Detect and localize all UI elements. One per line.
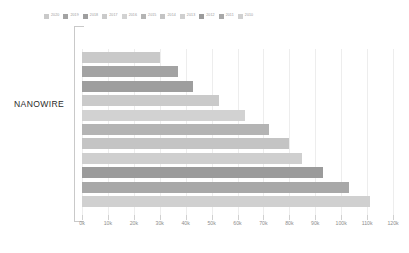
chart-legend: 2020201920182017201620152014201320122011… [44, 9, 394, 23]
bar-2012[interactable] [82, 167, 323, 178]
bar-row[interactable] [82, 153, 302, 164]
gridline [367, 49, 368, 215]
plot-area [82, 49, 393, 215]
x-axis-tick-label: 60k [233, 221, 241, 226]
bar-row[interactable] [82, 182, 349, 193]
bar-2013[interactable] [82, 153, 302, 164]
x-axis-tick-label: 40k [181, 221, 189, 226]
x-axis-tick-label: 90k [311, 221, 319, 226]
bar-row[interactable] [82, 124, 269, 135]
x-axis-tick-label: 80k [285, 221, 293, 226]
legend-item[interactable]: 2015 [141, 14, 156, 19]
legend-swatch-icon [180, 14, 185, 19]
bar-2015[interactable] [82, 124, 269, 135]
legend-swatch-icon [44, 14, 49, 19]
bar-row[interactable] [82, 66, 178, 77]
legend-item[interactable]: 2012 [199, 14, 214, 19]
x-axis-tick-label: 10k [104, 221, 112, 226]
x-axis-tick-label: 100k [336, 221, 347, 226]
category-axis-label: NANOWIRE [14, 99, 64, 109]
legend-item[interactable]: 2014 [160, 14, 175, 19]
legend-item-label: 2014 [167, 14, 175, 18]
legend-swatch-icon [160, 14, 165, 19]
bar-row[interactable] [82, 110, 245, 121]
bar-2014[interactable] [82, 138, 289, 149]
legend-item-label: 2018 [90, 14, 98, 18]
legend-item[interactable]: 2017 [102, 14, 117, 19]
legend-swatch-icon [238, 14, 243, 19]
legend-item-label: 2013 [187, 14, 195, 18]
x-axis-tick-label: 120k [387, 221, 398, 226]
bar-2019[interactable] [82, 66, 178, 77]
x-axis-tick-label: 70k [259, 221, 267, 226]
legend-item[interactable]: 2013 [180, 14, 195, 19]
legend-item[interactable]: 2011 [219, 14, 234, 19]
bar-2016[interactable] [82, 110, 245, 121]
bar-row[interactable] [82, 95, 219, 106]
bar-row[interactable] [82, 52, 160, 63]
bar-row[interactable] [82, 196, 370, 207]
x-axis: 0k10k20k30k40k50k60k70k80k90k100k110k120… [0, 215, 409, 235]
x-axis-tick-label: 50k [207, 221, 215, 226]
legend-item[interactable]: 2020 [44, 14, 59, 19]
bar-2011[interactable] [82, 182, 349, 193]
bar-chart: 2020201920182017201620152014201320122011… [0, 0, 409, 253]
legend-swatch-icon [199, 14, 204, 19]
legend-item-label: 2016 [129, 14, 137, 18]
bar-2020[interactable] [82, 52, 160, 63]
x-axis-tick-label: 0k [79, 221, 84, 226]
legend-item[interactable]: 2019 [63, 14, 78, 19]
gridline [393, 49, 394, 215]
bar-row[interactable] [82, 81, 193, 92]
bar-row[interactable] [82, 167, 323, 178]
legend-item[interactable]: 2016 [122, 14, 137, 19]
x-axis-tick-label: 30k [156, 221, 164, 226]
legend-item-label: 2012 [206, 14, 214, 18]
legend-item-label: 2020 [51, 14, 59, 18]
legend-item[interactable]: 2018 [83, 14, 98, 19]
bar-row[interactable] [82, 138, 289, 149]
legend-swatch-icon [63, 14, 68, 19]
legend-item[interactable]: 2010 [238, 14, 253, 19]
legend-item-label: 2019 [70, 14, 78, 18]
x-axis-tick-label: 110k [362, 221, 373, 226]
legend-swatch-icon [141, 14, 146, 19]
legend-item-label: 2011 [226, 14, 234, 18]
x-axis-tick-label: 20k [130, 221, 138, 226]
bar-2010[interactable] [82, 196, 370, 207]
legend-swatch-icon [122, 14, 127, 19]
legend-swatch-icon [83, 14, 88, 19]
legend-swatch-icon [219, 14, 224, 19]
legend-swatch-icon [102, 14, 107, 19]
bar-2017[interactable] [82, 95, 219, 106]
legend-item-label: 2017 [109, 14, 117, 18]
bar-2018[interactable] [82, 81, 193, 92]
legend-item-label: 2010 [245, 14, 253, 18]
legend-item-label: 2015 [148, 14, 156, 18]
